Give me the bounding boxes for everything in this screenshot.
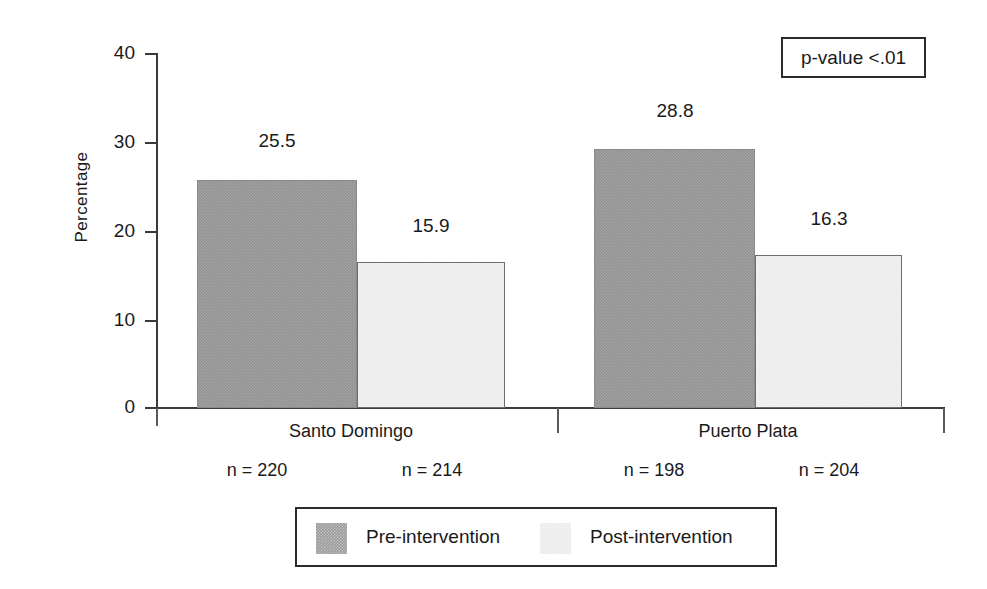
- y-tick-mark-30: [145, 142, 157, 144]
- y-tick-label-30: 30: [95, 132, 135, 151]
- sample-size-puerto-plata-pre: n = 198: [584, 461, 724, 479]
- sample-size-puerto-plata-post: n = 204: [759, 461, 899, 479]
- y-axis-tick-30: 30: [88, 142, 157, 144]
- y-tick-mark-20: [145, 231, 157, 233]
- bar-chart-figure: 40 30 20 10 0 Percentage 25.5 15.9 Santo…: [0, 0, 987, 589]
- chart-legend: Pre-intervention Post-intervention: [295, 507, 777, 567]
- sample-size-santo-domingo-pre: n = 220: [187, 461, 327, 479]
- x-axis-end-tick: [943, 408, 945, 433]
- legend-swatch-pre-intervention: [316, 523, 347, 554]
- y-tick-mark-40: [145, 53, 157, 55]
- bar-puerto-plata-post-intervention: [755, 255, 902, 408]
- y-axis-title: Percentage: [72, 132, 92, 262]
- legend-label-pre-intervention: Pre-intervention: [366, 526, 500, 547]
- bar-puerto-plata-pre-intervention: [594, 149, 755, 408]
- legend-swatch-post-intervention: [540, 523, 571, 554]
- y-axis-tick-40: 40: [88, 53, 157, 55]
- x-axis-origin-tick: [156, 408, 158, 426]
- sample-size-santo-domingo-post: n = 214: [362, 461, 502, 479]
- y-tick-label-0: 0: [95, 397, 135, 416]
- y-axis-tick-10: 10: [88, 320, 157, 322]
- bar-value-puerto-plata-pre: 28.8: [625, 101, 725, 120]
- y-tick-label-20: 20: [95, 221, 135, 240]
- bar-value-puerto-plata-post: 16.3: [779, 209, 879, 228]
- x-axis-group-separator-tick: [557, 408, 559, 433]
- bar-value-santo-domingo-post: 15.9: [381, 216, 481, 235]
- y-axis-tick-20: 20: [88, 231, 157, 233]
- y-tick-label-10: 10: [95, 310, 135, 329]
- category-label-santo-domingo: Santo Domingo: [251, 422, 451, 440]
- category-label-puerto-plata: Puerto Plata: [648, 422, 848, 440]
- p-value-text: p-value <.01: [801, 47, 906, 69]
- bar-santo-domingo-post-intervention: [357, 262, 505, 408]
- y-tick-mark-10: [145, 320, 157, 322]
- legend-label-post-intervention: Post-intervention: [590, 526, 733, 547]
- bar-value-santo-domingo-pre: 25.5: [227, 131, 327, 150]
- p-value-annotation-box: p-value <.01: [781, 37, 926, 78]
- bar-santo-domingo-pre-intervention: [197, 180, 357, 408]
- y-tick-label-40: 40: [95, 43, 135, 62]
- y-axis-tick-0: 0: [88, 407, 157, 409]
